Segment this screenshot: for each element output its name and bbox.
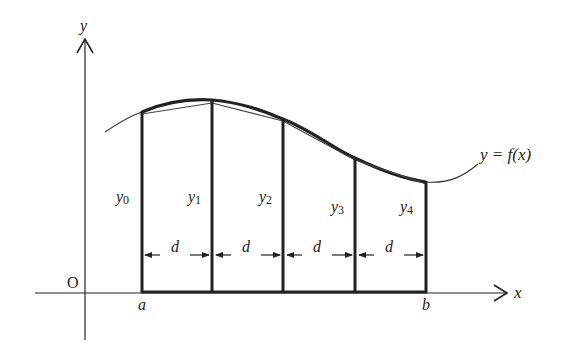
y-axis [77,39,93,340]
trapezoidal-diagram: y x O y0 y1 y2 y3 y4 d [0,0,573,359]
function-curve [105,100,478,183]
b-label: b [422,296,430,313]
label-y0: y0 [114,188,129,207]
d-label-1: d [171,238,180,255]
d-label-3: d [313,238,322,255]
label-y2: y2 [257,188,272,207]
d-label-4: d [385,238,394,255]
y-axis-label: y [78,17,88,35]
label-y3: y3 [329,198,344,217]
a-label: a [138,296,146,313]
label-y1: y1 [186,188,201,207]
origin-label: O [67,274,79,291]
x-axis-label: x [513,283,522,302]
function-label: y = f(x) [478,145,531,164]
label-y4: y4 [398,198,413,217]
d-label-2: d [242,238,251,255]
ordinate-lines [142,99,426,293]
